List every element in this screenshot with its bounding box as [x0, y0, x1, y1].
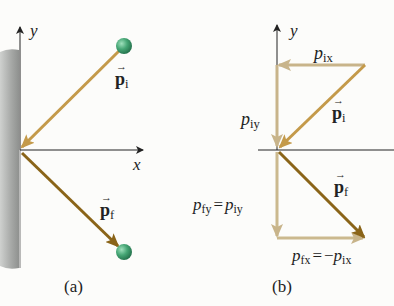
ball-final: [116, 244, 132, 260]
subscript: ix: [342, 253, 351, 267]
vector-label-pi-a: pi: [115, 70, 129, 91]
vector-subscript: f: [110, 208, 114, 222]
symbol: p: [193, 195, 202, 214]
vector-label-pi-b: pi: [332, 104, 346, 125]
vector-symbol: p: [332, 104, 342, 122]
y-axis-label-b: y: [290, 22, 298, 39]
subscript: iy: [250, 117, 260, 131]
x-axis-label-a: x: [133, 156, 141, 173]
component-label-pfy-equation: pfy=piy: [193, 196, 243, 216]
vector-symbol: p: [334, 178, 344, 196]
vector-subscript: f: [344, 185, 348, 199]
subscript: fy: [202, 202, 212, 216]
symbol: p: [241, 109, 250, 129]
subscript: iy: [234, 202, 243, 216]
vector-symbol: p: [100, 201, 110, 219]
ball-initial: [116, 38, 132, 54]
y-axis-label-a: y: [30, 22, 38, 39]
caption-a: (a): [64, 278, 83, 295]
vector-subscript: i: [342, 111, 346, 125]
minus-sign: −: [324, 246, 334, 265]
equals-sign: =: [213, 195, 223, 214]
symbol: p: [292, 246, 301, 265]
subscript: fx: [301, 253, 311, 267]
symbol: p: [225, 195, 234, 214]
vector-subscript: i: [125, 77, 129, 91]
momentum-initial-arrow-a: [22, 50, 120, 147]
symbol: p: [314, 43, 323, 63]
subscript: ix: [323, 51, 333, 65]
component-label-pfx-equation: pfx=−pix: [292, 247, 351, 267]
momentum-initial-arrow-b: [280, 65, 365, 147]
momentum-reflection-diagram: y x pi pf (a) y pix pi piy pf pfy=piy pf…: [0, 0, 394, 306]
symbol: p: [334, 246, 343, 265]
equals-sign: =: [312, 246, 322, 265]
vector-symbol: p: [115, 70, 125, 88]
caption-b: (b): [272, 278, 292, 295]
vector-label-pf-b: pf: [334, 178, 348, 199]
wall: [0, 49, 19, 268]
component-label-pix: pix: [314, 44, 333, 65]
vector-label-pf-a: pf: [100, 201, 114, 222]
component-label-piy: piy: [241, 110, 260, 131]
momentum-final-arrow-b: [279, 152, 364, 237]
